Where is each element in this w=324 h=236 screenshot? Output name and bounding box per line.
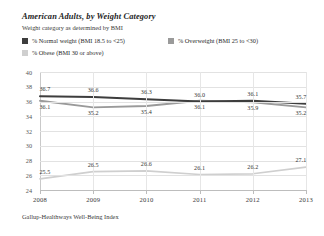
legend-item-obese[interactable]: % Obese (BMI 30 or above): [22, 49, 104, 56]
y-tick-38: 38: [0, 83, 32, 90]
data-label-1-2010: 35.4: [131, 109, 161, 115]
x-tick-2009: 2009: [71, 196, 115, 203]
gridline-x-2011: [200, 72, 201, 190]
x-tickmark-2009: [93, 190, 94, 194]
data-label-2-2013: 27.1: [286, 157, 316, 163]
data-label-1-2009: 35.2: [78, 110, 108, 116]
x-tickmark-2008: [40, 190, 41, 194]
gridline-x-2013: [306, 72, 307, 190]
legend-item-overweight[interactable]: % Overweight (BMI 25 to <30): [168, 37, 258, 44]
data-label-1-2011: 36.1: [185, 104, 215, 110]
legend-label-overweight: % Overweight (BMI 25 to <30): [178, 37, 258, 44]
legend-swatch-overweight: [168, 38, 174, 44]
data-label-0-2008: 36.7: [30, 86, 60, 92]
gridline-24: [40, 190, 306, 191]
gridline-34: [40, 116, 306, 117]
data-label-2-2010: 26.6: [131, 161, 161, 167]
page-subtitle: Weight category as determined by BMI: [22, 24, 123, 31]
legend-item-normal-weight[interactable]: % Normal weight (BMI 18.5 to <25): [22, 37, 125, 44]
data-label-1-2008: 36.1: [30, 104, 60, 110]
gridline-26: [40, 175, 306, 176]
x-tick-2008: 2008: [18, 196, 62, 203]
data-label-0-2009: 36.6: [78, 87, 108, 93]
data-label-0-2010: 36.3: [131, 89, 161, 95]
y-tick-32: 32: [0, 128, 32, 135]
x-tick-2013: 2013: [284, 196, 324, 203]
y-tick-24: 24: [0, 187, 32, 194]
gridline-40: [40, 72, 306, 73]
data-label-2-2008: 25.5: [30, 169, 60, 175]
x-tick-2011: 2011: [178, 196, 222, 203]
data-label-0-2011: 36.0: [185, 92, 215, 98]
data-label-0-2012: 36.1: [238, 91, 268, 97]
source-note: Gallup-Healthways Well-Being Index: [22, 213, 119, 220]
legend-label-normal-weight: % Normal weight (BMI 18.5 to <25): [32, 37, 125, 44]
x-tickmark-2010: [146, 190, 147, 194]
gridline-36: [40, 102, 306, 103]
chart-page: American Adults, by Weight Category Weig…: [0, 0, 324, 236]
x-tickmark-2013: [306, 190, 307, 194]
data-label-1-2012: 35.9: [238, 105, 268, 111]
data-label-2-2012: 26.2: [238, 164, 268, 170]
data-label-1-2013: 35.2: [286, 110, 316, 116]
legend-swatch-normal-weight: [22, 38, 28, 44]
x-tickmark-2011: [200, 190, 201, 194]
y-tick-34: 34: [0, 113, 32, 120]
page-title: American Adults, by Weight Category: [22, 12, 156, 21]
data-label-2-2011: 26.1: [185, 165, 215, 171]
data-label-2-2009: 26.5: [78, 162, 108, 168]
legend-label-obese: % Obese (BMI 30 or above): [32, 49, 104, 56]
legend-swatch-obese: [22, 50, 28, 56]
data-label-0-2013: 35.7: [286, 94, 316, 100]
gridline-x-2012: [253, 72, 254, 190]
x-tick-2010: 2010: [124, 196, 168, 203]
y-tick-36: 36: [0, 98, 32, 105]
gridline-32: [40, 131, 306, 132]
y-tick-26: 26: [0, 172, 32, 179]
x-tickmark-2012: [253, 190, 254, 194]
y-tick-30: 30: [0, 142, 32, 149]
x-tick-2012: 2012: [231, 196, 275, 203]
y-tick-40: 40: [0, 69, 32, 76]
gridline-30: [40, 146, 306, 147]
y-tick-28: 28: [0, 157, 32, 164]
